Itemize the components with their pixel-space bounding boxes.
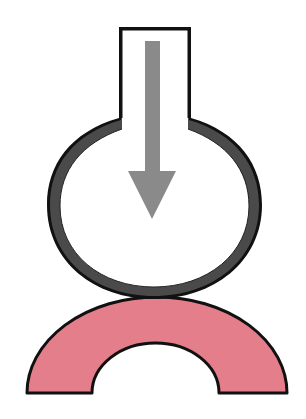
arch-icon	[27, 297, 287, 393]
diagram-svg	[0, 0, 306, 419]
diagram-canvas	[0, 0, 306, 419]
